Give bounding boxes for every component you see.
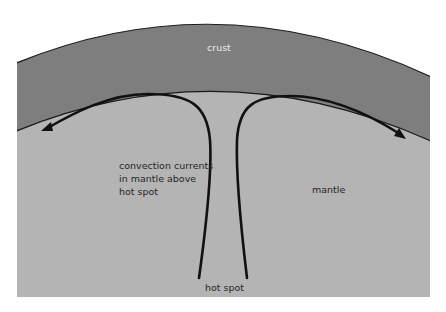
mantle-label: mantle: [312, 183, 345, 196]
convection-label: convection currents in mantle above hot …: [119, 159, 213, 198]
crust-label: crust: [207, 41, 231, 54]
hot-spot-label: hot spot: [205, 281, 244, 294]
